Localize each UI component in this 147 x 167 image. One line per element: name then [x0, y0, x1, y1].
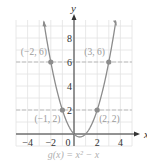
data-point [48, 59, 53, 64]
point-label: (−1, 2) [34, 114, 60, 125]
chart: xy−4−20242468(−2, 6)(3, 6)(−1, 2)(2, 2) [0, 0, 147, 167]
y-tick-label: 4 [67, 81, 72, 92]
y-tick-label: 8 [67, 33, 72, 44]
x-axis-arrow-icon [134, 132, 140, 137]
point-label: (3, 6) [84, 47, 105, 58]
y-axis-arrow-icon [72, 14, 77, 20]
function-caption: g(x) = x² − x [0, 149, 147, 160]
x-axis-label: x [143, 128, 147, 140]
curve-arrow-left-icon [43, 20, 47, 27]
data-point [95, 107, 100, 112]
y-tick-label: 2 [67, 105, 72, 116]
x-tick-label: 2 [95, 137, 100, 148]
x-tick-label: −4 [22, 137, 33, 148]
x-tick-label: 0 [66, 137, 71, 148]
point-label: (2, 2) [99, 114, 120, 125]
data-point [106, 59, 111, 64]
point-label: (−2, 6) [21, 47, 47, 58]
y-tick-label: 6 [67, 57, 72, 68]
x-tick-label: 4 [118, 137, 123, 148]
x-tick-label: −2 [45, 137, 56, 148]
y-axis-label: y [70, 2, 76, 14]
data-point [60, 107, 65, 112]
